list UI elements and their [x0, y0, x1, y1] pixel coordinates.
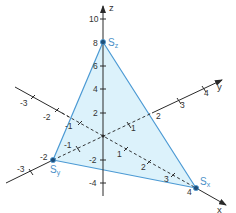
- point-sz-label: Sz: [108, 37, 119, 49]
- z-tick-10: 10: [89, 14, 99, 24]
- y-tick-2: 2: [156, 111, 161, 121]
- y-tick-3: 3: [180, 100, 185, 110]
- z-tick-8: 8: [93, 38, 98, 48]
- y-tick-neg2: -2: [40, 152, 48, 162]
- z-tick-2: 2: [93, 108, 98, 118]
- y-axis-label: y: [217, 81, 222, 92]
- x-tick-neg3: -3: [20, 98, 28, 108]
- point-sy-label: Sy: [50, 164, 61, 177]
- point-sy: [50, 157, 55, 162]
- x-axis-positive: [196, 188, 226, 205]
- y-axis-positive: [152, 80, 222, 113]
- point-sx-label: Sx: [200, 176, 211, 188]
- x-tick-3: 3: [164, 174, 169, 184]
- x-axis-label: x: [217, 204, 222, 213]
- coordinate-system-diagram: 10 8 6 4 2 -2 -4 z -3 -2 -1 1 2 3 4 x -3…: [0, 0, 236, 213]
- x-tick-2: 2: [141, 162, 146, 172]
- point-sx: [193, 185, 198, 190]
- x-tick-neg1: -1: [65, 121, 73, 131]
- y-tick-4: 4: [204, 88, 209, 98]
- point-sz: [100, 39, 105, 44]
- origin-point: [101, 134, 104, 137]
- z-tick-neg4: -4: [89, 178, 97, 188]
- y-tick-neg3: -3: [17, 164, 25, 174]
- z-tick-4: 4: [93, 84, 98, 94]
- x-tick-4: 4: [187, 187, 192, 197]
- y-tick-neg1: -1: [64, 140, 72, 150]
- z-tick-neg2: -2: [89, 155, 97, 165]
- y-axis-negative: [6, 160, 53, 183]
- x-tick-1: 1: [117, 149, 122, 159]
- plane-triangle: [53, 42, 196, 188]
- x-tick-neg2: -2: [43, 112, 51, 122]
- y-tick-1: 1: [131, 123, 136, 133]
- z-tick-6: 6: [93, 61, 98, 71]
- z-axis-label: z: [109, 2, 114, 13]
